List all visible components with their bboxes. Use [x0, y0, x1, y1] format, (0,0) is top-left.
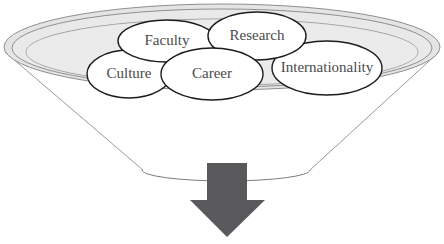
bubble-career-label: Career: [192, 65, 232, 81]
bubble-internationality-label: Internationality: [281, 59, 374, 75]
funnel-diagram: Culture Internationality Faculty Researc…: [0, 0, 444, 244]
bubble-research-label: Research: [230, 27, 285, 43]
funnel-diagram-canvas: Culture Internationality Faculty Researc…: [0, 0, 444, 244]
bubble-culture-label: Culture: [107, 65, 152, 81]
bubble-faculty-label: Faculty: [145, 32, 190, 48]
bubble-career[interactable]: Career: [161, 48, 263, 100]
